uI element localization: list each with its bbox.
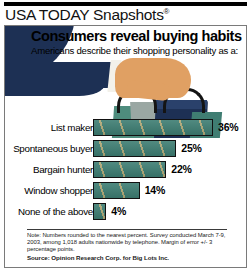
bar-value-label: 22% bbox=[171, 163, 191, 175]
chart-row: List maker36% bbox=[5, 119, 247, 140]
bar-segment bbox=[93, 203, 106, 220]
bar-shading bbox=[94, 204, 105, 219]
chart-row: None of the above4% bbox=[5, 203, 247, 224]
bar-value-label: 4% bbox=[111, 205, 126, 217]
bar-segment bbox=[93, 140, 176, 157]
snapshot-panel: Consumers reveal buying habits Americans… bbox=[4, 25, 247, 268]
bar-segment bbox=[93, 182, 140, 199]
usa-today-snapshot-infographic: USA TODAY Snapshots® Consumers reveal bu… bbox=[0, 0, 251, 271]
footnote-divider bbox=[27, 229, 227, 230]
bar-category-label: Window shopper bbox=[4, 185, 93, 196]
bar-shading bbox=[94, 183, 139, 198]
bar-chart: List maker36%Spontaneous buyer25%Bargain… bbox=[5, 119, 247, 224]
registered-trademark-icon: ® bbox=[164, 7, 170, 16]
bar-segment bbox=[93, 119, 213, 136]
bar-category-label: Bargain hunter bbox=[4, 164, 93, 175]
bar-shading bbox=[94, 162, 165, 177]
bar-shading bbox=[94, 120, 212, 135]
bar-segment bbox=[93, 161, 166, 178]
page-subtitle: Americans describe their shopping person… bbox=[31, 45, 245, 56]
bar-value-label: 36% bbox=[218, 121, 238, 133]
chart-row: Bargain hunter22% bbox=[5, 161, 247, 182]
chart-row: Window shopper14% bbox=[5, 182, 247, 203]
brand-title-text: USA TODAY Snapshots bbox=[5, 6, 164, 23]
chart-source: Source: Opinion Research Corp. for Big L… bbox=[27, 254, 233, 261]
bar-category-label: Spontaneous buyer bbox=[4, 143, 93, 154]
bar-value-label: 14% bbox=[145, 184, 165, 196]
page-title: Consumers reveal buying habits bbox=[31, 29, 243, 44]
brand-title: USA TODAY Snapshots® bbox=[5, 6, 169, 24]
bar-category-label: List maker bbox=[4, 122, 93, 133]
bar-shading bbox=[94, 141, 175, 156]
bar-category-label: None of the above bbox=[4, 206, 93, 217]
bar-value-label: 25% bbox=[181, 142, 201, 154]
chart-row: Spontaneous buyer25% bbox=[5, 140, 247, 161]
chart-note: Note: Numbers rounded to the nearest per… bbox=[27, 232, 233, 253]
suit-sleeve-shape bbox=[4, 62, 119, 88]
